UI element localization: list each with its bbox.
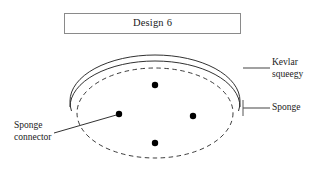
label-kevlar-line2: squeegy [272, 69, 303, 81]
label-kevlar-squeegy: Kevlar squeegy [272, 57, 303, 80]
kevlar-squeegee-outer-arc [70, 55, 240, 101]
label-sponge-line1: Sponge [272, 102, 301, 114]
design-figure: Design 6 Kevlar squeegy Sponge Sponge co… [0, 0, 316, 177]
label-sponge: Sponge [272, 102, 301, 114]
design-title-box: Design 6 [64, 13, 241, 34]
connector-dot-bottom [152, 140, 158, 146]
sponge-connector-leader-line [54, 115, 117, 133]
label-connector-line2: connector [14, 132, 51, 144]
connector-dot-right [190, 113, 196, 119]
label-kevlar-line1: Kevlar [272, 57, 303, 69]
connector-dot-left [116, 111, 122, 117]
connector-dot-top [152, 82, 158, 88]
label-sponge-connector: Sponge connector [14, 120, 51, 143]
label-connector-line1: Sponge [14, 120, 51, 132]
page-title: Design 6 [133, 18, 172, 29]
